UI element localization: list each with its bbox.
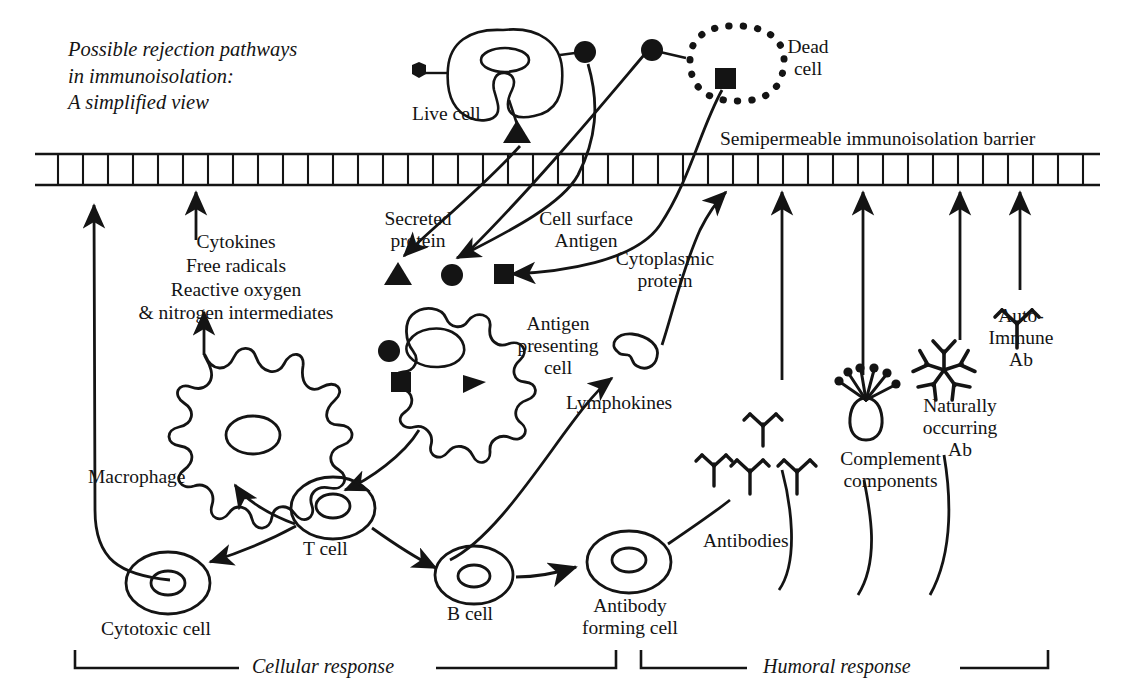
b-cell-label: B cell: [447, 603, 493, 625]
humoral-response-label: Humoral response: [763, 655, 911, 677]
live-cell-glyph: [412, 29, 596, 143]
live-cell-label: Live cell: [412, 103, 481, 125]
cytotoxic-cell-glyph: [126, 552, 210, 614]
diagram-canvas: Possible rejection pathwaysin immunoisol…: [0, 0, 1122, 699]
t-cell-glyph: [291, 477, 375, 539]
antibody-forming-cell-glyph: [587, 531, 671, 593]
cytotoxic-cell-label: Cytotoxic cell: [101, 618, 211, 640]
antigen-presenting-cell-label: Antigenpresentingcell: [488, 313, 628, 378]
macrophage-glyph: [169, 348, 352, 528]
apc-triangle-antigen: [463, 375, 486, 393]
complement-component-glyph: [834, 363, 900, 440]
cellular-response-label: Cellular response: [252, 655, 394, 677]
cytoplasmic-protein-label: Cytoplasmicprotein: [590, 248, 740, 292]
tcell-to-bcell-arrow: [372, 528, 436, 568]
figure-title: Possible rejection pathwaysin immunoisol…: [68, 36, 297, 116]
tcell-to-cytotoxic-arrow: [210, 526, 296, 562]
complement-feeder: [858, 480, 872, 595]
tcell-to-macrophage-arrow: [235, 485, 295, 524]
naturally-occurring-ab-label: NaturallyoccurringAb: [906, 395, 1014, 460]
antibodies-glyph: [696, 414, 816, 494]
triangle-molecule: [384, 262, 412, 285]
semipermeable-barrier: [35, 154, 1100, 185]
apc-circle-antigen: [378, 340, 400, 362]
antibody-forming-cell-label: Antibodyforming cell: [556, 595, 704, 639]
cell-surface-antigen-label: Cell surfaceAntigen: [516, 208, 656, 252]
dead-cell-label: Deadcell: [768, 36, 848, 80]
autoimmune-ab-label: Auto-ImmuneAb: [975, 305, 1067, 370]
apc-square-antigen: [391, 372, 411, 392]
lymphokines-label: Lymphokines: [566, 392, 672, 414]
dead-cell-glyph: [641, 26, 784, 101]
antibodies-label: Antibodies: [703, 530, 789, 552]
b-cell-glyph: [435, 546, 513, 604]
bcell-to-afc-arrow: [516, 567, 576, 577]
barrier-label: Semipermeable immunoisolation barrier: [720, 128, 1035, 150]
naturally-occurring-ab-glyph: [913, 341, 975, 400]
t-cell-label: T cell: [303, 538, 348, 560]
secreted-protein-label: Secretedprotein: [358, 208, 478, 252]
free-molecules: [384, 262, 514, 286]
mediators-label: CytokinesFree radicalsReactive oxygen& n…: [116, 230, 356, 325]
square-molecule: [494, 264, 514, 284]
macrophage-label: Macrophage: [88, 466, 185, 488]
circle-molecule: [441, 264, 463, 286]
